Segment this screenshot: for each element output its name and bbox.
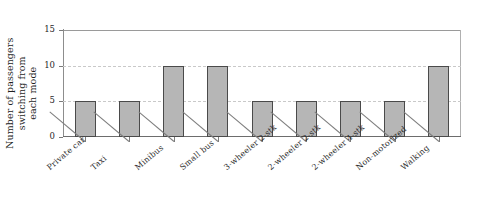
y-axis-title: Number of passengers switching from each… bbox=[4, 18, 39, 168]
bar-chart-figure: Number of passengers switching from each… bbox=[0, 0, 485, 215]
y-tick-mark-0 bbox=[59, 137, 63, 138]
bar-small-bus bbox=[207, 66, 228, 137]
x-category-label-minibus: Minibus bbox=[134, 143, 166, 172]
bar-minibus bbox=[163, 66, 184, 137]
y-tick-label-10: 10 bbox=[35, 60, 55, 70]
x-category-label-small-bus: Small bus bbox=[178, 138, 216, 172]
plot-area: 051015 bbox=[63, 30, 461, 137]
y-tick-label-5: 5 bbox=[35, 95, 55, 105]
bar-walking bbox=[428, 66, 449, 137]
x-category-label-taxi: Taxi bbox=[89, 154, 108, 172]
bar-series bbox=[63, 30, 461, 137]
bar-private-car bbox=[75, 101, 96, 137]
y-tick-label-15: 15 bbox=[35, 24, 55, 34]
y-tick-label-0: 0 bbox=[35, 131, 55, 141]
x-tick-mark-1 bbox=[129, 137, 130, 142]
x-category-label-walking: Walking bbox=[399, 143, 431, 172]
bar-taxi bbox=[119, 101, 140, 137]
